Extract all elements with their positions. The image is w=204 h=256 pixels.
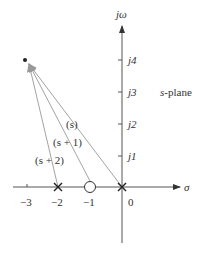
real-axis-label: σ	[184, 181, 190, 193]
vector-label-s-plus-2: (s + 2)	[35, 154, 64, 167]
tick-label-minus2: −2	[51, 196, 63, 208]
plane-label: s-plane	[160, 86, 192, 98]
tick-label-j3: j3	[126, 86, 137, 98]
s-plane-diagram: jω σ j4 j3 j2 j1 −3 −2 −1 0 s-plane (s) …	[0, 0, 204, 256]
tick-label-minus1: −1	[83, 196, 95, 208]
tick-label-j1: j1	[126, 150, 137, 162]
zero-minus1-icon	[85, 182, 96, 193]
vector-label-s: (s)	[66, 118, 78, 131]
test-point	[23, 58, 27, 62]
tick-label-0: 0	[128, 196, 134, 208]
tick-label-minus3: −3	[20, 196, 32, 208]
tick-label-j2: j2	[126, 118, 137, 130]
vector-label-s-plus-1: (s + 1)	[53, 136, 82, 149]
tick-label-j4: j4	[126, 54, 137, 66]
imag-axis-label: jω	[114, 8, 127, 20]
